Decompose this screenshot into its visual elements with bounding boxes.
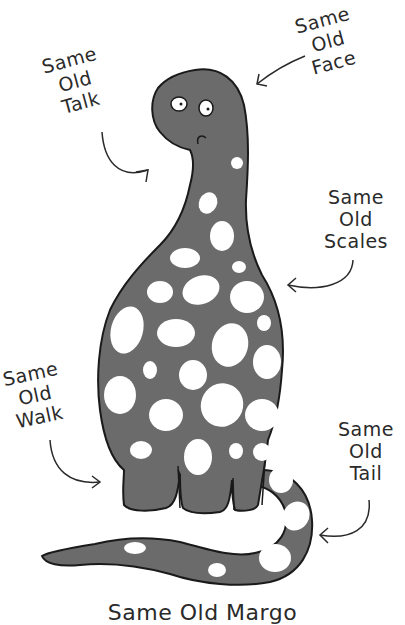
label-tail: Same Old Tail: [333, 418, 399, 484]
arrow-talk: [102, 132, 148, 173]
left-eye: [171, 97, 187, 111]
label-scales: Same Old Scales: [318, 186, 394, 252]
arrow-scales: [288, 260, 353, 288]
caption: Same Old Margo: [0, 600, 405, 625]
right-eye: [199, 100, 213, 116]
arrow-tail: [320, 500, 369, 536]
